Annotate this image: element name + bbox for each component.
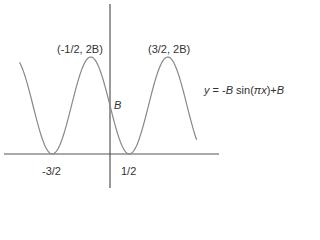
- sine-curve: [20, 57, 197, 154]
- eq-sin: sin(: [233, 84, 254, 96]
- eq-b2: B: [277, 84, 284, 96]
- x-tick-1-2: 1/2: [121, 166, 136, 177]
- eq-b1: B: [226, 84, 233, 96]
- eq-eq: = -: [210, 84, 226, 96]
- peak-left-label: (-1/2, 2B): [57, 44, 103, 55]
- b-intercept-label: B: [114, 100, 121, 111]
- equation-label: y = -B sin(πx)+B: [204, 85, 284, 96]
- x-tick-neg-3-2: -3/2: [42, 166, 61, 177]
- eq-rest: )+: [267, 84, 277, 96]
- peak-right-label: (3/2, 2B): [148, 44, 190, 55]
